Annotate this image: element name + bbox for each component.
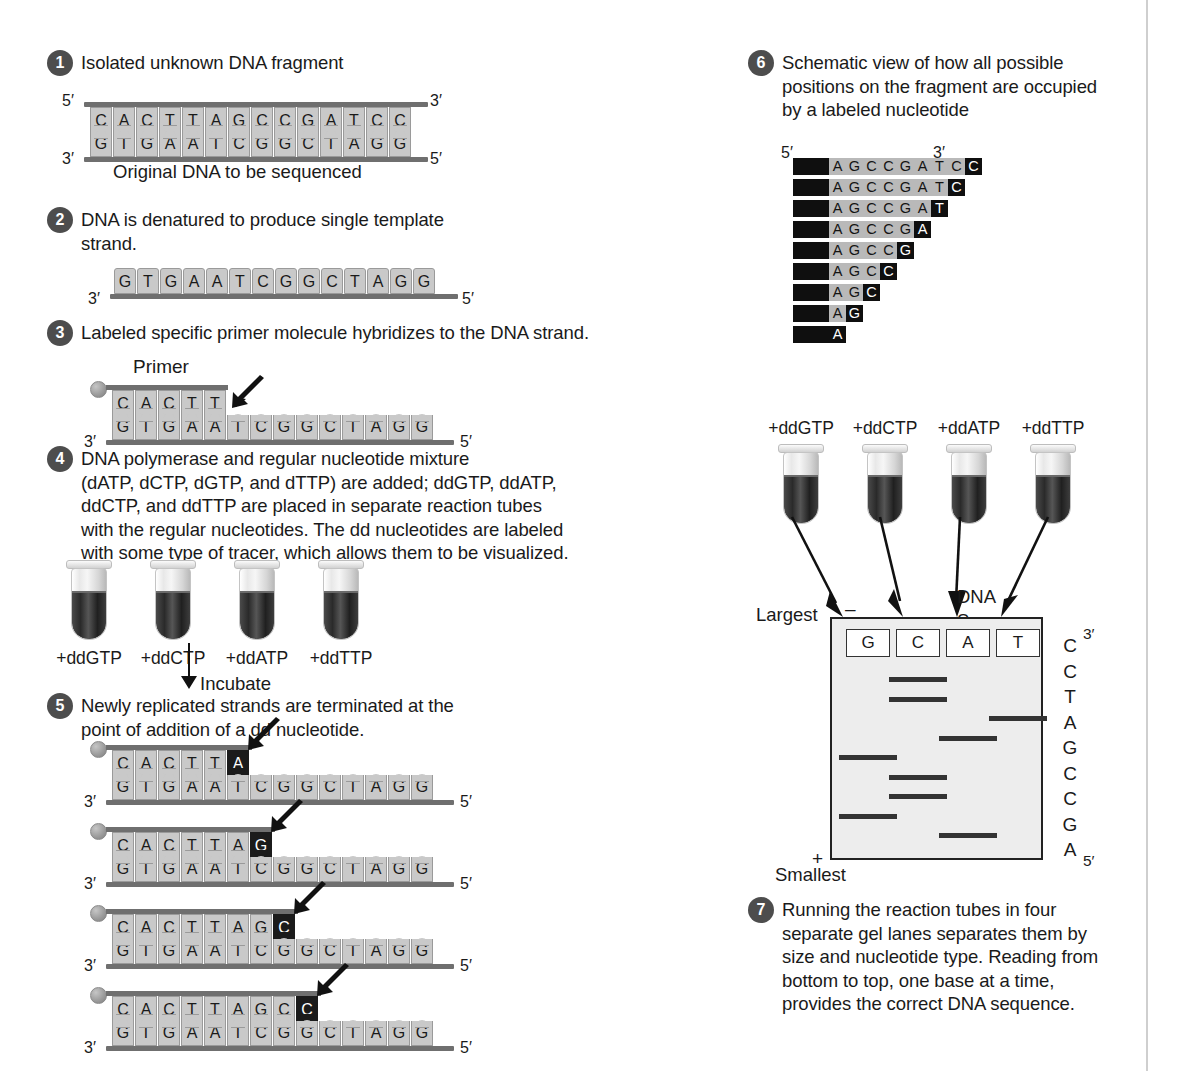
gel-band <box>939 736 997 741</box>
dna-base: T <box>204 996 226 1021</box>
dna-base: C <box>389 107 411 132</box>
termination-arrow-icon <box>288 880 328 916</box>
ladder-base: A <box>914 158 931 175</box>
reaction-tube <box>152 560 194 642</box>
dna-base: G <box>112 1021 134 1046</box>
dna-base: T <box>342 857 364 882</box>
dna-base: G <box>297 107 319 132</box>
dna-base: G <box>158 775 180 800</box>
dna-base: G <box>250 914 272 939</box>
strand-3prime: 3′ <box>84 957 96 975</box>
ladder-row: AGCCGATC <box>793 179 965 196</box>
sequence-base: G <box>1058 812 1082 838</box>
tube-label: +ddATP <box>215 648 299 669</box>
dna-base: C <box>228 132 250 157</box>
tube-label: +ddTTP <box>299 648 383 669</box>
template-backbone <box>106 964 454 969</box>
dna-base: A <box>227 996 249 1021</box>
step-3-badge: 3 <box>47 320 73 346</box>
ladder-base: C <box>880 221 897 238</box>
ladder-sequence: A <box>829 326 846 343</box>
step-6-badge: 6 <box>748 50 774 76</box>
dna-base: C <box>158 832 180 857</box>
dna-base: T <box>135 775 157 800</box>
template-backbone <box>110 294 458 299</box>
ladder-base: A <box>914 221 931 238</box>
new-strand-bases: CACTTAGC <box>112 914 296 939</box>
ladder-base: C <box>863 221 880 238</box>
dna-base: G <box>250 996 272 1021</box>
ladder-base: C <box>863 179 880 196</box>
dna-base: T <box>229 268 251 294</box>
ladder-base: C <box>880 242 897 259</box>
tube-body <box>155 568 191 640</box>
ladder-base: A <box>829 158 846 175</box>
step-5-badge: 5 <box>47 693 73 719</box>
dna-base: A <box>204 939 226 964</box>
ladder-base: A <box>914 179 931 196</box>
dna-base: C <box>158 750 180 775</box>
dna-base: C <box>297 132 319 157</box>
sequencing-gel: GCAT <box>830 617 1043 860</box>
ladder-row: AGC <box>793 284 880 301</box>
dna-base: G <box>112 939 134 964</box>
dna-base: C <box>319 1021 341 1046</box>
dna-base: T <box>159 107 181 132</box>
template-3prime: 3′ <box>88 290 100 308</box>
dna-base: C <box>250 939 272 964</box>
template-5prime: 5′ <box>462 290 474 308</box>
ladder-base: G <box>846 242 863 259</box>
dna-base: G <box>251 132 273 157</box>
template-strand-bases: GTGAATCGGCTAGG <box>112 775 434 800</box>
labeled-primer-block <box>793 305 829 322</box>
dna-base: G <box>112 415 134 440</box>
largest-label: Largest <box>756 604 818 626</box>
dna-base: C <box>158 390 180 415</box>
duplex-5prime-left: 5′ <box>62 92 74 110</box>
dna-base: G <box>388 857 410 882</box>
dna-base: G <box>411 415 433 440</box>
dna-base: T <box>342 415 364 440</box>
labeled-primer-block <box>793 242 829 259</box>
dna-base: C <box>273 996 295 1021</box>
dna-base: C <box>158 914 180 939</box>
tube-body <box>323 568 359 640</box>
ladder-base: C <box>880 179 897 196</box>
dna-base: C <box>251 107 273 132</box>
sequence-base: C <box>1058 786 1082 812</box>
dna-base: G <box>90 132 112 157</box>
dna-base: A <box>181 939 203 964</box>
primer-label-ball-icon <box>90 823 107 840</box>
dna-base: C <box>250 1021 272 1046</box>
dna-base: C <box>136 107 158 132</box>
dna-base: C <box>250 775 272 800</box>
gel-band <box>889 677 947 682</box>
primer-label-ball-icon <box>90 987 107 1004</box>
dna-base: C <box>274 107 296 132</box>
tube-label: +ddGTP <box>759 418 843 439</box>
dna-base: G <box>388 1021 410 1046</box>
step-1-badge: 1 <box>47 50 73 76</box>
step-2-text: DNA is denatured to produce single templ… <box>81 208 444 255</box>
tube-label: +ddGTP <box>47 648 131 669</box>
dna-base: T <box>343 107 365 132</box>
step-1-text: Isolated unknown DNA fragment <box>81 51 343 75</box>
dna-base: C <box>319 939 341 964</box>
readout-5prime: 5′ <box>1083 852 1095 870</box>
ladder-base: A <box>829 221 846 238</box>
dna-base: A <box>159 132 181 157</box>
step-7-badge: 7 <box>748 897 774 923</box>
tube-body <box>239 568 275 640</box>
dna-base: T <box>135 939 157 964</box>
primer-template-bases: GTGAATCGGCTAGG <box>112 415 434 440</box>
primer-template-backbone <box>106 440 454 445</box>
ladder-base: G <box>897 242 914 259</box>
dna-base: T <box>342 939 364 964</box>
dna-base: T <box>204 832 226 857</box>
dna-base: G <box>413 268 435 294</box>
dna-base: A <box>182 132 204 157</box>
tube-liquid <box>324 591 358 639</box>
termination-arrow-icon <box>311 962 351 998</box>
labeled-primer-block <box>793 200 829 217</box>
dna-base: T <box>227 857 249 882</box>
